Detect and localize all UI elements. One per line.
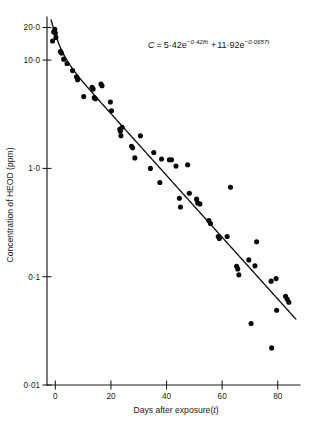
semilog-scatter-chart: 0·010·11·010·020·0 020406080 Concentrati… — [0, 0, 313, 421]
data-point — [53, 35, 58, 40]
equation-term1-exponent: −0·428t — [187, 38, 208, 45]
x-axis-title-prefix: Days after exposure( — [133, 405, 213, 415]
data-point — [235, 266, 240, 271]
data-point — [185, 162, 190, 167]
data-point — [217, 236, 222, 241]
data-point — [100, 83, 105, 88]
y-axis-title-group: Concentration of HEOD (ppm) — [5, 147, 15, 262]
data-point — [93, 96, 98, 101]
data-point — [151, 150, 156, 155]
biexponential-fit-curve — [51, 20, 296, 319]
x-axis-title-group: Days after exposure(t) — [133, 405, 218, 415]
data-point — [120, 125, 125, 130]
data-point — [169, 157, 174, 162]
data-point — [157, 180, 162, 185]
data-point — [159, 157, 164, 162]
data-point — [286, 300, 291, 305]
x-axis-title-suffix: ) — [216, 405, 219, 415]
y-axis-tick-label: 1·0 — [28, 164, 40, 173]
plot-axes — [43, 17, 301, 390]
data-point — [236, 272, 241, 277]
equation-term1-coefficient: 5·42e — [164, 40, 187, 50]
data-point — [108, 99, 113, 104]
x-axis-tick-label: 20 — [106, 392, 116, 401]
data-point — [61, 57, 66, 62]
x-axis-tick-label: 80 — [273, 392, 283, 401]
data-point — [225, 234, 230, 239]
data-point — [109, 108, 114, 113]
equation-term2-exponent: −0·0657t — [245, 38, 270, 45]
data-point — [254, 239, 259, 244]
data-point — [118, 133, 123, 138]
y-axis-tick-label: 10·0 — [24, 56, 41, 65]
data-point — [91, 87, 96, 92]
data-point — [138, 133, 143, 138]
data-point — [64, 61, 69, 66]
data-point — [148, 166, 153, 171]
data-point — [53, 30, 58, 35]
data-point — [59, 51, 64, 56]
data-point — [173, 164, 178, 169]
y-axis-tick-label: 20·0 — [24, 23, 41, 32]
data-point — [269, 345, 274, 350]
x-axis-tick-labels: 020406080 — [53, 392, 283, 401]
data-point — [274, 308, 279, 313]
equation-plus: + — [211, 40, 216, 50]
data-point — [178, 204, 183, 209]
equation-equals: = — [157, 40, 162, 50]
scatter-points-group — [50, 27, 291, 351]
data-point — [81, 94, 86, 99]
equation-text: C=5·42e−0·428t+11·92e−0·0657t — [148, 38, 269, 50]
x-axis-tick-label: 40 — [162, 392, 172, 401]
x-axis-tick-label: 0 — [53, 392, 58, 401]
data-point — [75, 77, 80, 82]
x-axis-tick-label: 60 — [218, 392, 228, 401]
equation-term2-coefficient: 11·92e — [217, 40, 244, 50]
data-point — [252, 263, 257, 268]
data-point — [274, 276, 279, 281]
data-point — [269, 279, 274, 284]
data-point — [228, 185, 233, 190]
data-point — [70, 68, 75, 73]
x-axis-title: Days after exposure(t) — [133, 405, 218, 415]
data-point — [208, 221, 213, 226]
equation-annotation: C=5·42e−0·428t+11·92e−0·0657t — [148, 38, 269, 50]
data-point — [177, 196, 182, 201]
y-axis-tick-label: 0·1 — [28, 273, 40, 282]
equation-lhs: C — [148, 40, 155, 50]
y-axis-tick-label: 0·01 — [24, 381, 41, 390]
y-axis-title: Concentration of HEOD (ppm) — [5, 147, 15, 262]
y-axis-tick-labels: 0·010·11·010·020·0 — [24, 23, 41, 390]
data-point — [187, 191, 192, 196]
data-point — [132, 155, 137, 160]
data-point — [130, 145, 135, 150]
data-point — [197, 201, 202, 206]
figure-container: 0·010·11·010·020·0 020406080 Concentrati… — [0, 0, 313, 421]
data-point — [249, 321, 254, 326]
data-point — [246, 257, 251, 262]
